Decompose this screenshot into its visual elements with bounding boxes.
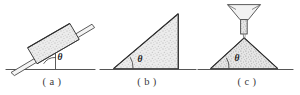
funnel-stem — [241, 20, 248, 34]
funnel-icon — [228, 5, 261, 20]
figure-canvas — [0, 0, 300, 95]
material-stream — [243, 34, 244, 38]
panel-c — [198, 5, 293, 70]
material-stream-secondary — [245, 34, 246, 38]
panel-b — [100, 14, 196, 70]
panel-c-granular-cone — [211, 38, 278, 69]
panel-a — [6, 23, 95, 75]
figure-root: θ θ θ ( a ) ( b ) ( c ) — [0, 0, 300, 95]
